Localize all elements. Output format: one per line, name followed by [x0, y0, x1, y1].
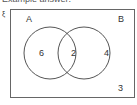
- universal-set-symbol: ξ: [2, 10, 5, 18]
- a-only-value: 6: [39, 48, 44, 58]
- set-a-circle: [24, 27, 76, 79]
- set-a-label: A: [26, 14, 32, 24]
- b-only-value: 4: [104, 48, 109, 58]
- set-b-label: B: [118, 14, 124, 24]
- outside-value: 3: [118, 83, 123, 93]
- intersection-value: 2: [71, 48, 76, 58]
- set-b-circle: [58, 27, 110, 79]
- venn-diagram: ξ A B 6 2 4 3: [0, 0, 137, 105]
